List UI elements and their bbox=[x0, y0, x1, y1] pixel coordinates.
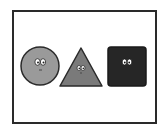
shapes-canvas bbox=[0, 0, 168, 131]
triangle-character bbox=[60, 48, 102, 86]
circle-character bbox=[21, 47, 59, 85]
square-character bbox=[108, 47, 146, 86]
